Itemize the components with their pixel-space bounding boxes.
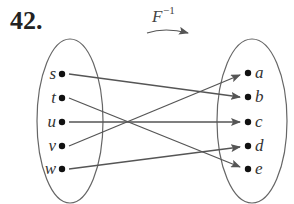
domain-elements: s t u v w — [45, 64, 66, 178]
domain-label-t: t — [51, 88, 57, 107]
codomain-dot-c — [245, 119, 251, 125]
domain-label-u: u — [48, 112, 57, 131]
direction-arrow-icon — [147, 30, 188, 33]
mapping-arrows — [69, 74, 240, 169]
domain-dot-t — [59, 95, 65, 101]
codomain-label-d: d — [255, 136, 264, 155]
codomain-label-c: c — [255, 112, 263, 131]
codomain-dot-e — [245, 166, 251, 172]
function-label: F −1 — [147, 4, 188, 33]
codomain-elements: a b c d e — [245, 63, 264, 178]
domain-dot-v — [59, 143, 65, 149]
domain-dot-u — [59, 119, 65, 125]
codomain-ellipse — [217, 39, 287, 203]
codomain-dot-d — [245, 143, 251, 149]
domain-label-s: s — [49, 64, 56, 83]
domain-dot-w — [59, 166, 65, 172]
codomain-label-a: a — [255, 63, 264, 82]
domain-label-v: v — [48, 136, 56, 155]
codomain-label-b: b — [255, 87, 264, 106]
codomain-dot-a — [245, 70, 251, 76]
arrow-w-to-d — [69, 147, 240, 169]
function-superscript: −1 — [163, 4, 175, 16]
codomain-dot-b — [245, 94, 251, 100]
arrow-diagram: F −1 s t u v w a b c d e — [0, 0, 294, 204]
arrow-t-to-e — [69, 98, 240, 167]
codomain-label-e: e — [255, 159, 263, 178]
function-name: F — [151, 7, 163, 26]
domain-dot-s — [59, 71, 65, 77]
domain-label-w: w — [45, 159, 57, 178]
